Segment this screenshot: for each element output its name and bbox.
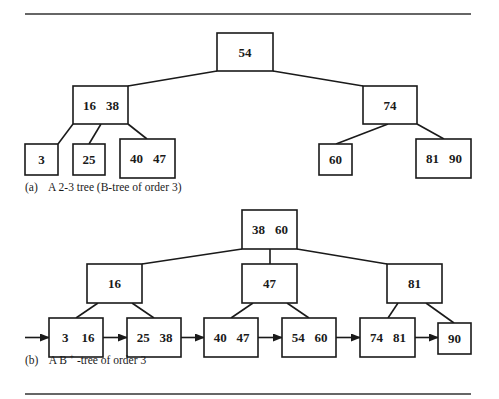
- tree-edge: [142, 249, 242, 264]
- tree-edge: [128, 71, 217, 86]
- node-box: [127, 318, 181, 357]
- tree-node: 1638: [73, 86, 128, 124]
- node-key: 25: [83, 152, 97, 167]
- tree-node: 47: [242, 264, 297, 303]
- b-tree-figure: 541638743254047608190 (a) A 2-3 tree (B-…: [0, 0, 499, 399]
- node-key: 3: [62, 330, 69, 345]
- caption-b-suffix: -tree of order 3: [77, 354, 147, 366]
- tree-edge: [273, 71, 363, 86]
- node-box: [120, 139, 175, 178]
- node-key: 81: [408, 276, 421, 291]
- caption-a: (a) A 2-3 tree (B-tree of order 3): [25, 181, 182, 194]
- tree-edge: [388, 303, 398, 318]
- tree-node: 4047: [120, 139, 175, 178]
- tree-node: 81: [387, 264, 442, 303]
- node-key: 60: [275, 222, 288, 237]
- node-key: 40: [130, 151, 143, 166]
- caption-a-label: (a): [25, 181, 38, 194]
- node-box: [416, 139, 471, 178]
- node-box: [282, 318, 336, 357]
- tree-node: 60: [319, 144, 352, 175]
- node-key: 16: [83, 98, 97, 113]
- tree-node: 7481: [360, 318, 415, 357]
- tree-edge: [336, 124, 388, 144]
- node-key: 54: [292, 330, 306, 345]
- tree-edge: [231, 303, 253, 318]
- tree-node: 54: [217, 33, 273, 71]
- tree-node: 5460: [282, 318, 336, 357]
- node-key: 60: [314, 330, 327, 345]
- node-key: 60: [329, 152, 342, 167]
- tree-edge: [287, 303, 309, 318]
- caption-b-label: (b): [25, 354, 39, 367]
- node-key: 81: [426, 151, 439, 166]
- node-key: 40: [214, 330, 227, 345]
- node-key: 74: [370, 330, 384, 345]
- tree-node: 2538: [127, 318, 181, 357]
- node-key: 47: [263, 276, 277, 291]
- node-key: 25: [137, 330, 151, 345]
- node-key: 54: [239, 45, 253, 60]
- node-key: 90: [449, 151, 462, 166]
- tree-node: 16: [87, 264, 142, 303]
- tree-node: 8190: [416, 139, 471, 178]
- tree-edge: [426, 303, 454, 323]
- tree-node: 90: [438, 323, 471, 354]
- caption-b-prefix: A B: [49, 354, 68, 366]
- tree-edge: [58, 124, 73, 144]
- node-key: 90: [448, 331, 461, 346]
- tree-edge: [417, 124, 444, 139]
- tree-edge: [76, 303, 98, 318]
- node-key: 3: [38, 152, 45, 167]
- node-key: 16: [81, 330, 95, 345]
- tree-a-2-3-tree: 541638743254047608190: [25, 33, 471, 178]
- tree-node: 4047: [204, 318, 258, 357]
- node-key: 38: [252, 222, 266, 237]
- tree-node: 3: [25, 144, 58, 175]
- node-key: 38: [159, 330, 173, 345]
- nodes: 541638743254047608190: [25, 33, 471, 178]
- nodes: 3860164781316253840475460748190: [49, 210, 471, 357]
- tree-node: 74: [363, 86, 417, 124]
- caption-a-text: A 2-3 tree (B-tree of order 3): [48, 181, 182, 194]
- node-box: [360, 318, 415, 357]
- tree-edge: [132, 303, 154, 318]
- node-box: [242, 210, 297, 249]
- tree-b-bplus-tree: 3860164781316253840475460748190: [25, 210, 471, 357]
- tree-edge: [128, 124, 147, 139]
- node-key: 38: [106, 98, 120, 113]
- node-key: 81: [393, 330, 406, 345]
- node-key: 47: [236, 330, 250, 345]
- node-box: [204, 318, 258, 357]
- node-key: 47: [153, 151, 167, 166]
- caption-b-sup: +: [70, 352, 74, 361]
- node-key: 16: [108, 276, 122, 291]
- tree-node: 25: [73, 144, 105, 175]
- tree-edge: [297, 249, 387, 264]
- tree-node: 3860: [242, 210, 297, 249]
- tree-edge: [89, 124, 101, 144]
- node-box: [73, 86, 128, 124]
- node-key: 74: [384, 98, 398, 113]
